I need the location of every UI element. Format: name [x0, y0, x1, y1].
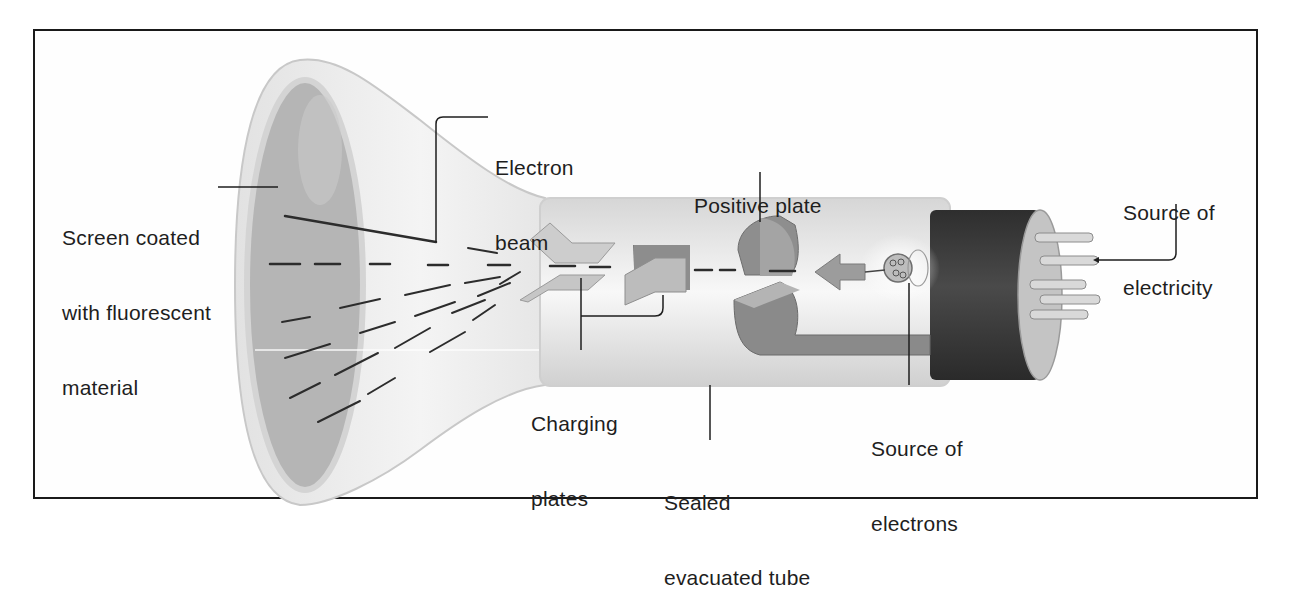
label-screen-line3: material — [62, 375, 211, 400]
label-charging-plates-line1: Charging — [531, 411, 618, 436]
label-source-electricity-line1: Source of — [1123, 200, 1215, 225]
label-electron-beam-line1: Electron — [495, 155, 574, 180]
label-sealed-tube-line2: evacuated tube — [664, 565, 810, 589]
label-source-electricity: Source of electricity — [1123, 150, 1215, 325]
label-source-electrons-line1: Source of — [871, 436, 963, 461]
label-source-electrons: Source of electrons — [871, 386, 963, 561]
label-screen: Screen coated with fluorescent material — [62, 175, 211, 425]
label-electron-beam: Electron beam — [495, 105, 574, 280]
electron-source — [860, 234, 940, 302]
label-charging-plates: Charging plates — [531, 361, 618, 536]
label-positive-plate: Positive plate — [694, 143, 822, 243]
label-charging-plates-line2: plates — [531, 486, 618, 511]
label-source-electricity-line2: electricity — [1123, 275, 1215, 300]
label-electron-beam-line2: beam — [495, 230, 574, 255]
label-sealed-tube-line1: Sealed — [664, 490, 810, 515]
label-screen-line2: with fluorescent — [62, 300, 211, 325]
label-sealed-tube: Sealed evacuated tube — [664, 440, 810, 589]
label-positive-plate-line1: Positive plate — [694, 193, 822, 218]
label-screen-line1: Screen coated — [62, 225, 211, 250]
label-source-electrons-line2: electrons — [871, 511, 963, 536]
